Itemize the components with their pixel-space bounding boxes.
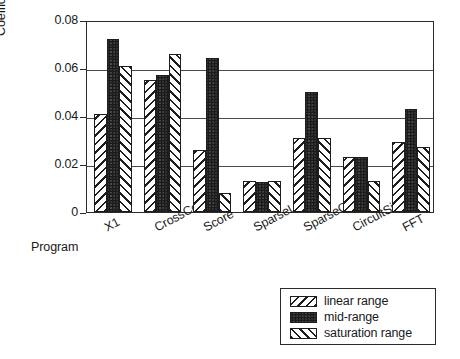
bar-crosscor-mid-range [156,75,169,212]
x-tick-label-fft: FFT [400,211,427,234]
x-axis-title: Program [31,240,78,254]
bar-sparseqr-linear-range [293,138,306,212]
bar-score-linear-range [193,150,206,212]
bar-circuitsim-mid-range [355,157,368,212]
gridline [87,70,433,71]
bar-fft-mid-range [405,109,418,212]
bar-x1-linear-range [94,114,107,212]
legend-item-linear-range: linear range [290,293,435,309]
legend-item-mid-range: mid-range [290,309,435,325]
bar-fft-saturation-range [417,147,430,212]
y-tick-label: 0 [30,206,78,218]
legend-swatch-linear-range-icon [290,296,317,307]
legend-label-saturation-range: saturation range [324,326,412,340]
gridline [87,166,433,167]
legend-label-mid-range: mid-range [324,310,379,324]
y-axis-title: Coefficient Of Variance [0,0,8,36]
bar-x1-mid-range [107,39,120,212]
gridline [87,118,433,119]
y-tick-mark [80,213,86,214]
bar-crosscor-linear-range [144,80,157,212]
bar-chart: Coefficient Of Variance 00.020.040.060.0… [0,0,460,359]
y-tick-label: 0.04 [30,110,78,122]
bar-score-mid-range [206,58,219,212]
y-tick-label: 0.08 [30,14,78,26]
bar-circuitsim-linear-range [343,157,356,212]
x-tick-label-x1: X1 [102,215,122,234]
legend: linear range mid-range saturation range [280,288,436,345]
legend-item-saturation-range: saturation range [290,325,435,341]
bar-fft-linear-range [392,142,405,212]
bar-x1-saturation-range [119,66,132,212]
legend-swatch-saturation-range-icon [290,328,317,339]
y-tick-label: 0.02 [30,158,78,170]
bar-sparseqr-saturation-range [318,138,331,212]
bar-sparselu-saturation-range [268,181,281,212]
bar-score-saturation-range [219,193,232,212]
legend-label-linear-range: linear range [324,294,388,308]
bar-sparselu-mid-range [256,182,269,212]
plot-area [86,21,434,213]
legend-swatch-mid-range-icon [290,312,317,323]
y-tick-label: 0.06 [30,62,78,74]
bar-crosscor-saturation-range [169,54,182,212]
bar-circuitsim-saturation-range [368,181,381,212]
bar-sparselu-linear-range [243,181,256,212]
bar-sparseqr-mid-range [305,92,318,212]
